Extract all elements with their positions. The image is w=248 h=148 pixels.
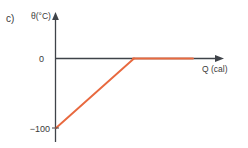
temperature-vs-heat-chart: c) θ(°C) Q (cal) 0 −100	[0, 0, 248, 148]
figure-item-label: c)	[6, 13, 14, 24]
y-axis-title: θ(°C)	[31, 11, 51, 21]
x-axis-title: Q (cal)	[202, 64, 228, 74]
y-tick-label-minus-100: −100	[30, 124, 50, 134]
figure-container: c) θ(°C) Q (cal) 0 −100	[0, 0, 248, 148]
y-tick-label-zero: 0	[39, 54, 44, 64]
